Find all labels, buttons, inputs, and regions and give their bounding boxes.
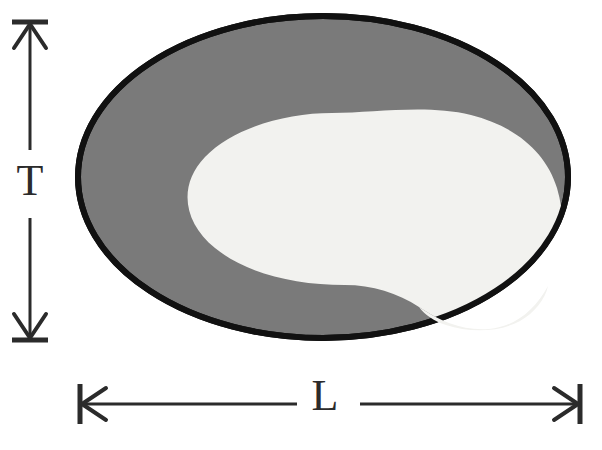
length-label: L xyxy=(312,371,339,420)
figure-root: T L xyxy=(0,0,602,450)
ellipse-dimension-diagram: T L xyxy=(0,0,602,450)
thickness-label: T xyxy=(17,156,44,205)
